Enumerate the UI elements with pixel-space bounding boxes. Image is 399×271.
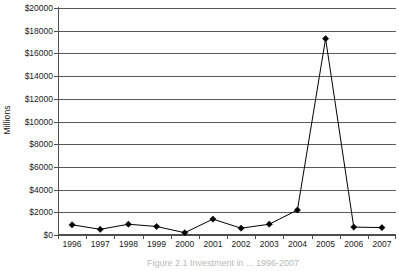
y-axis-title: Millions bbox=[0, 0, 14, 240]
y-axis-tick-label: $8000 bbox=[29, 139, 53, 149]
data-point-marker bbox=[153, 223, 159, 229]
data-point-marker bbox=[379, 225, 385, 231]
x-axis-tick-label: 2007 bbox=[372, 239, 391, 249]
data-point-marker bbox=[210, 216, 216, 222]
data-point-marker bbox=[182, 230, 188, 236]
data-point-marker bbox=[238, 225, 244, 231]
data-point-marker bbox=[266, 221, 272, 227]
x-axis-tick-label: 2002 bbox=[232, 239, 251, 249]
x-axis-tick-label: 1997 bbox=[91, 239, 110, 249]
x-axis-tick-label: 1996 bbox=[63, 239, 82, 249]
y-axis-tick-label: $4000 bbox=[29, 185, 53, 195]
data-point-marker bbox=[125, 221, 131, 227]
x-axis-tick-label: 2001 bbox=[203, 239, 222, 249]
y-axis-tick-label: $2000 bbox=[29, 207, 53, 217]
x-axis-tick-label: 2003 bbox=[260, 239, 279, 249]
x-axis-tick-label: 2006 bbox=[344, 239, 363, 249]
data-point-marker bbox=[294, 207, 300, 213]
x-axis-tick-label: 1998 bbox=[119, 239, 138, 249]
y-axis-tick-label: $6000 bbox=[29, 162, 53, 172]
y-axis-tick-label: $14000 bbox=[25, 71, 53, 81]
y-axis-tick-label: $18000 bbox=[25, 26, 53, 36]
figure-container: Millions $0$2000$4000$6000$8000$10000$12… bbox=[0, 0, 399, 271]
x-axis-tick-labels: 1996199719981999200020012002200320042005… bbox=[58, 239, 396, 253]
series-line-path bbox=[72, 39, 382, 233]
x-axis-tick-label: 2004 bbox=[288, 239, 307, 249]
x-axis-tick-label: 2000 bbox=[175, 239, 194, 249]
figure-caption: Figure 2.1 Investment in ... 1996-2007 bbox=[58, 258, 388, 268]
y-axis-tick-label: $20000 bbox=[25, 3, 53, 13]
y-axis-tick-label: $10000 bbox=[25, 117, 53, 127]
y-axis-title-label: Millions bbox=[2, 105, 12, 134]
y-axis-tick-label: $12000 bbox=[25, 94, 53, 104]
x-axis-tick-label: 2005 bbox=[316, 239, 335, 249]
data-point-marker bbox=[69, 222, 75, 228]
x-axis-tick-label: 1999 bbox=[147, 239, 166, 249]
data-point-marker bbox=[351, 224, 357, 230]
data-series-line bbox=[58, 8, 396, 235]
y-axis-tick-labels: $0$2000$4000$6000$8000$10000$12000$14000… bbox=[14, 0, 56, 243]
data-point-marker bbox=[97, 226, 103, 232]
plot-area bbox=[58, 8, 396, 235]
y-axis-tick-label: $0 bbox=[44, 230, 53, 240]
y-axis-tick-label: $16000 bbox=[25, 48, 53, 58]
data-point-marker bbox=[322, 36, 328, 42]
